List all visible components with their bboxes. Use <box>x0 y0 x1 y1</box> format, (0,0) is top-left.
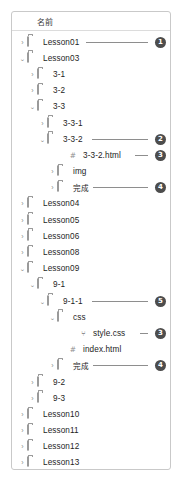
tree-row[interactable]: ›9-2 <box>12 374 170 390</box>
tree-row[interactable]: ⌄3-3-22 <box>12 131 170 147</box>
chevron-right-icon[interactable]: › <box>18 200 27 207</box>
chevron-right-icon[interactable]: › <box>38 120 47 127</box>
folder-icon <box>27 263 39 274</box>
tree-row[interactable]: ›9-3 <box>12 390 170 406</box>
tree-row-label: 9-1-1 <box>63 297 83 306</box>
folder-icon <box>47 118 59 129</box>
tree-row[interactable]: ⌄Lesson09 <box>12 261 170 277</box>
folder-icon <box>47 296 59 307</box>
chevron-right-icon[interactable]: › <box>28 87 37 94</box>
annotation-leader-line <box>93 187 148 188</box>
chevron-down-icon[interactable]: ⌄ <box>38 298 47 304</box>
tree-row[interactable]: ⑂style.css3 <box>12 325 170 341</box>
tree-row[interactable]: ›3-1 <box>12 66 170 82</box>
chevron-right-icon[interactable]: › <box>18 217 27 224</box>
tree-row[interactable]: ›Lesson011 <box>12 34 170 50</box>
column-header-name: 名前 <box>12 16 54 27</box>
tree-row[interactable]: ›Lesson05 <box>12 212 170 228</box>
chevron-down-icon[interactable]: ⌄ <box>28 104 37 110</box>
folder-icon <box>57 360 69 371</box>
tree-row-label: Lesson06 <box>43 232 79 241</box>
folder-icon <box>27 37 39 48</box>
tree-row[interactable]: #3-3-2.html3 <box>12 147 170 163</box>
tree-row-label: Lesson03 <box>43 54 79 63</box>
tree-row[interactable]: ›Lesson06 <box>12 228 170 244</box>
folder-icon <box>27 409 39 420</box>
annotation-marker: 4 <box>155 182 166 193</box>
folder-icon <box>37 393 49 404</box>
folder-icon <box>37 101 49 112</box>
tree-row-label: 完成 <box>73 182 89 193</box>
chevron-down-icon[interactable]: ⌄ <box>18 266 27 272</box>
folder-icon <box>37 85 49 96</box>
annotation-marker: 3 <box>155 328 166 339</box>
folder-icon <box>27 231 39 242</box>
chevron-right-icon[interactable]: › <box>48 168 57 175</box>
tree-row[interactable]: ›Lesson11 <box>12 423 170 439</box>
tree-row[interactable]: ›Lesson08 <box>12 244 170 260</box>
tree-row[interactable]: ⌄9-1-15 <box>12 293 170 309</box>
tree-row[interactable]: ›3-3-1 <box>12 115 170 131</box>
folder-icon <box>57 182 69 193</box>
tree-row[interactable]: ⌄9-1 <box>12 277 170 293</box>
chevron-right-icon[interactable]: › <box>18 249 27 256</box>
annotation-marker: 3 <box>155 150 166 161</box>
folder-icon <box>27 247 39 258</box>
folder-icon <box>57 312 69 323</box>
chevron-right-icon[interactable]: › <box>18 427 27 434</box>
annotation-marker: 2 <box>155 134 166 145</box>
tree-row[interactable]: ⌄3-3 <box>12 99 170 115</box>
tree-row-label: Lesson12 <box>43 442 79 451</box>
annotation-leader-line <box>93 365 148 366</box>
chevron-right-icon[interactable]: › <box>48 362 57 369</box>
annotation-leader-line <box>92 301 149 302</box>
chevron-right-icon[interactable]: › <box>18 443 27 450</box>
annotation-marker: 5 <box>155 296 166 307</box>
chevron-right-icon[interactable]: › <box>18 233 27 240</box>
folder-icon <box>27 425 39 436</box>
folder-icon <box>27 457 39 468</box>
chevron-down-icon[interactable]: ⌄ <box>48 314 57 320</box>
chevron-down-icon[interactable]: ⌄ <box>38 136 47 142</box>
tree-row[interactable]: ›Lesson04 <box>12 196 170 212</box>
css-file-icon: ⑂ <box>77 328 89 339</box>
tree-row[interactable]: ›img <box>12 164 170 180</box>
folder-icon <box>27 198 39 209</box>
tree-row-label: Lesson11 <box>43 426 79 435</box>
chevron-right-icon[interactable]: › <box>18 39 27 46</box>
tree-row[interactable]: ›Lesson12 <box>12 439 170 455</box>
folder-icon <box>37 279 49 290</box>
tree-row-label: Lesson04 <box>43 199 79 208</box>
folder-icon <box>37 69 49 80</box>
chevron-right-icon[interactable]: › <box>18 459 27 466</box>
folder-icon <box>27 53 39 64</box>
tree-row[interactable]: ›Lesson13 <box>12 455 170 470</box>
tree-row[interactable]: ›3-2 <box>12 83 170 99</box>
chevron-right-icon[interactable]: › <box>18 411 27 418</box>
tree-row-label: 3-3 <box>53 102 65 111</box>
tree-row[interactable]: ›完成4 <box>12 180 170 196</box>
tree-row[interactable]: ›完成4 <box>12 358 170 374</box>
chevron-down-icon[interactable]: ⌄ <box>18 55 27 61</box>
tree-row-label: Lesson13 <box>43 458 79 467</box>
file-tree[interactable]: ›Lesson011⌄Lesson03›3-1›3-2⌄3-3›3-3-1⌄3-… <box>12 31 170 470</box>
tree-row-label: 完成 <box>73 360 89 371</box>
annotation-leader-line <box>135 155 148 156</box>
tree-header: 名前 <box>12 12 170 31</box>
tree-row-label: 3-2 <box>53 86 65 95</box>
chevron-right-icon[interactable]: › <box>28 379 37 386</box>
tree-row[interactable]: ›Lesson10 <box>12 406 170 422</box>
tree-row-label: Lesson05 <box>43 216 79 225</box>
chevron-right-icon[interactable]: › <box>28 395 37 402</box>
chevron-down-icon[interactable]: ⌄ <box>28 282 37 288</box>
chevron-right-icon[interactable]: › <box>48 184 57 191</box>
tree-row[interactable]: ⌄Lesson03 <box>12 50 170 66</box>
tree-row[interactable]: ⌄css <box>12 309 170 325</box>
annotation-leader-line <box>86 42 148 43</box>
chevron-right-icon[interactable]: › <box>28 71 37 78</box>
tree-row-label: 9-1 <box>53 280 65 289</box>
tree-row[interactable]: #index.html <box>12 342 170 358</box>
annotation-leader-line <box>140 333 148 334</box>
tree-row-label: Lesson10 <box>43 410 79 419</box>
html-file-icon: # <box>67 150 79 161</box>
